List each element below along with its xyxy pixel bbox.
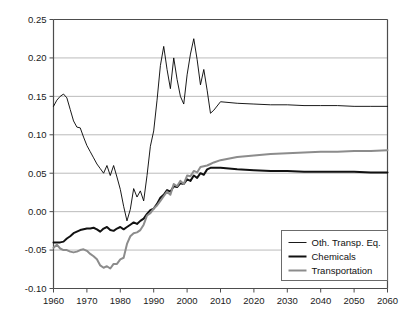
y-tick-label: 0.20 bbox=[28, 52, 47, 63]
x-tick-label: 1990 bbox=[143, 295, 164, 306]
y-tick-label: 0.10 bbox=[28, 129, 47, 140]
chart-container: -0.10-0.050.000.050.100.150.200.25 19601… bbox=[0, 0, 420, 324]
x-tick-label: 2020 bbox=[243, 295, 264, 306]
x-tick-label: 2030 bbox=[277, 295, 298, 306]
y-tick-label: 0.00 bbox=[28, 206, 47, 217]
legend-label: Transportation bbox=[312, 265, 373, 276]
legend: Oth. Transp. Eq.ChemicalsTransportation bbox=[282, 231, 388, 281]
x-tick-label: 2050 bbox=[344, 295, 365, 306]
x-tick-label: 1970 bbox=[76, 295, 97, 306]
y-tick-label: 0.05 bbox=[28, 168, 47, 179]
line-chart: -0.10-0.050.000.050.100.150.200.25 19601… bbox=[0, 0, 420, 324]
legend-label: Oth. Transp. Eq. bbox=[312, 237, 381, 248]
x-tick-label: 2000 bbox=[177, 295, 198, 306]
x-tick-label: 1980 bbox=[110, 295, 131, 306]
x-tick-label: 1960 bbox=[43, 295, 64, 306]
y-tick-label: -0.05 bbox=[25, 244, 47, 255]
x-tick-label: 2060 bbox=[377, 295, 398, 306]
y-tick-label: 0.25 bbox=[28, 14, 47, 25]
x-tick-label: 2040 bbox=[310, 295, 331, 306]
x-tick-label: 2010 bbox=[210, 295, 231, 306]
y-tick-label: 0.15 bbox=[28, 91, 47, 102]
y-tick-label: -0.10 bbox=[25, 283, 47, 294]
legend-label: Chemicals bbox=[312, 251, 357, 262]
